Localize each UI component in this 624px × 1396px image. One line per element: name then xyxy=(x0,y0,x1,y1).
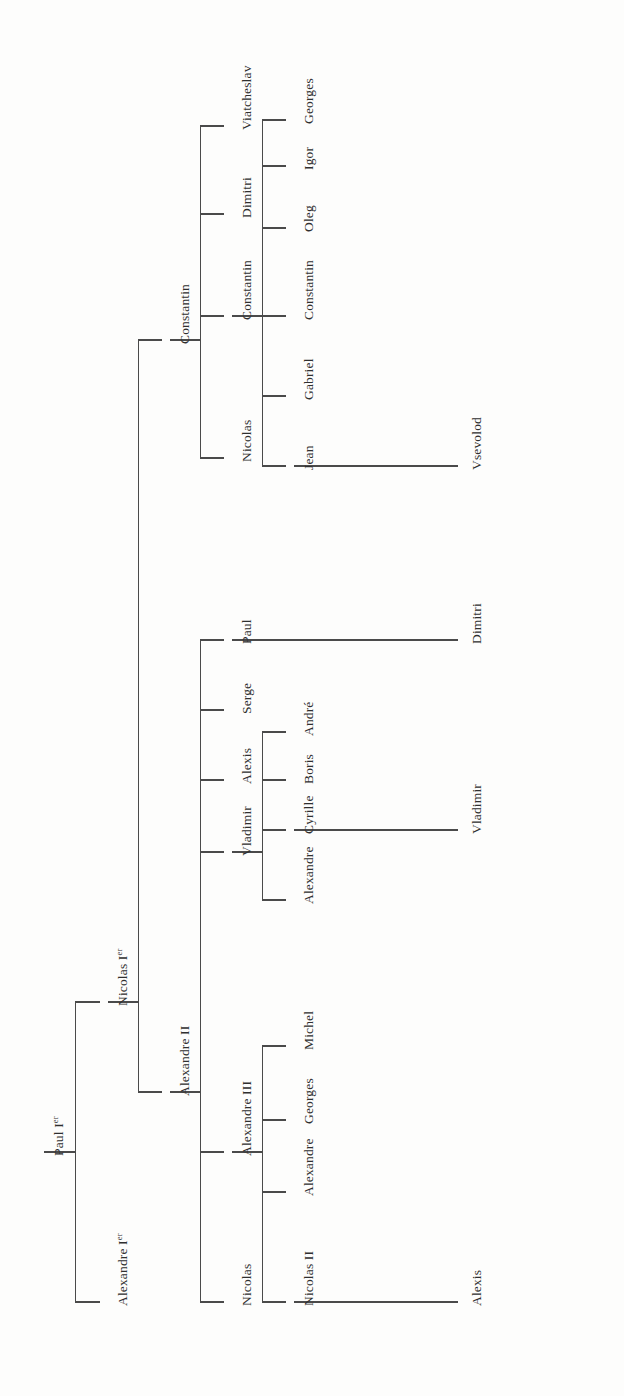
tree-node-alexandre1[interactable]: Alexandre Ier xyxy=(116,1233,130,1306)
tree-node-boris[interactable]: Boris xyxy=(302,754,316,784)
tree-node-cc_igor[interactable]: Igor xyxy=(302,147,316,170)
tree-node-c_nicolas[interactable]: Nicolas xyxy=(240,420,254,462)
tree-node-cc_constantin[interactable]: Constantin xyxy=(302,260,316,320)
tree-node-vsevolod[interactable]: Vsevolod xyxy=(470,417,484,470)
tree-node-a3_alexandre[interactable]: Alexandre xyxy=(302,1138,316,1196)
tree-node-serge[interactable]: Serge xyxy=(240,683,254,714)
tree-node-nicolas1[interactable]: Nicolas Ier xyxy=(116,949,130,1006)
genealogy-chart: Paul IerAlexandre IerNicolas IerAlexandr… xyxy=(0,0,624,1396)
ordinal-suffix: er xyxy=(114,1233,124,1240)
tree-node-a3_michel[interactable]: Michel xyxy=(302,1011,316,1050)
ordinal-suffix: er xyxy=(50,1116,60,1123)
tree-node-p_dimitri[interactable]: Dimitri xyxy=(470,603,484,644)
tree-node-viatcheslav[interactable]: Viatcheslav xyxy=(240,65,254,130)
tree-node-alexis_a2[interactable]: Alexis xyxy=(240,748,254,784)
tree-node-a2_nicolas[interactable]: Nicolas xyxy=(240,1264,254,1306)
tree-node-v_alexandre[interactable]: Alexandre xyxy=(302,846,316,904)
tree-node-alexis_n2[interactable]: Alexis xyxy=(470,1270,484,1306)
tree-node-cc_gabriel[interactable]: Gabriel xyxy=(302,358,316,400)
tree-node-alexandre2[interactable]: Alexandre II xyxy=(178,1026,192,1096)
tree-node-a3[interactable]: Alexandre III xyxy=(240,1081,254,1156)
tree-node-paul_a2[interactable]: Paul xyxy=(240,619,254,644)
tree-node-cyrille[interactable]: Cyrille xyxy=(302,795,316,834)
tree-node-a3_georges[interactable]: Georges xyxy=(302,1078,316,1124)
tree-node-cc_jean[interactable]: Jean xyxy=(302,445,316,470)
tree-node-paul1[interactable]: Paul Ier xyxy=(52,1116,66,1156)
tree-node-cc_oleg[interactable]: Oleg xyxy=(302,205,316,232)
tree-node-vladimir_c[interactable]: Vladimir xyxy=(470,784,484,834)
tree-node-cc_georges[interactable]: Georges xyxy=(302,78,316,124)
tree-node-constantin_n[interactable]: Constantin xyxy=(178,284,192,344)
ordinal-suffix: er xyxy=(114,949,124,956)
tree-node-vladimir[interactable]: Vladimir xyxy=(240,806,254,856)
tree-node-c_constantin[interactable]: Constantin xyxy=(240,260,254,320)
tree-node-c_dimitri[interactable]: Dimitri xyxy=(240,177,254,218)
tree-node-andre[interactable]: André xyxy=(302,702,316,737)
tree-node-nicolas2[interactable]: Nicolas II xyxy=(302,1251,316,1306)
